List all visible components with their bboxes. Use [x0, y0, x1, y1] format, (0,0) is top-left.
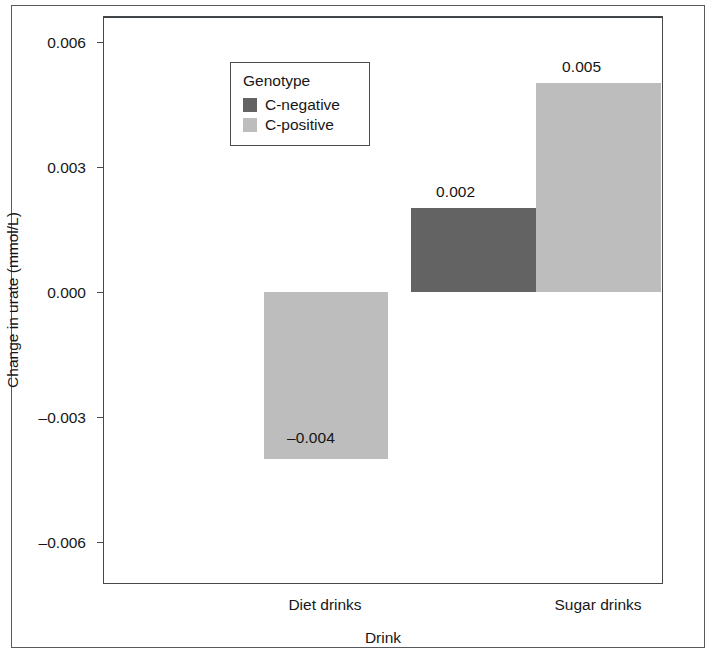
- legend-swatch-icon: [243, 98, 257, 112]
- bar-value-label-sugar-c-negative: 0.002: [436, 183, 475, 201]
- y-tick-label: 0.000: [47, 284, 86, 302]
- bar-sugar-c-negative: [411, 208, 536, 292]
- y-tick-label: 0.006: [47, 34, 86, 52]
- y-tick-mark: 0.003: [97, 167, 104, 168]
- chart-figure: Change in urate (mmol/L) 0.0060.0030.000…: [0, 0, 717, 661]
- y-tick-mark: 0.000: [97, 292, 104, 293]
- x-category-label: Sugar drinks: [554, 596, 641, 614]
- legend-item-label: C-positive: [265, 116, 334, 134]
- y-tick-label: 0.003: [47, 159, 86, 177]
- legend-item: C-positive: [243, 116, 357, 134]
- x-axis-title: Drink: [365, 629, 401, 647]
- x-category-label: Diet drinks: [288, 596, 361, 614]
- y-tick-label: –0.003: [39, 409, 86, 427]
- legend-swatch-icon: [243, 118, 257, 132]
- y-tick-label: –0.006: [39, 534, 86, 552]
- legend-title: Genotype: [243, 72, 357, 90]
- bar-value-label-diet-c-positive: –0.004: [287, 429, 335, 447]
- y-tick-mark: –0.006: [97, 542, 104, 543]
- legend-item-label: C-negative: [265, 96, 340, 114]
- plot-inner-clip: [104, 17, 662, 583]
- y-tick-mark: 0.006: [97, 42, 104, 43]
- legend-item: C-negative: [243, 96, 357, 114]
- plot-area: 0.0060.0030.000–0.003–0.006 –0.0040.0020…: [103, 16, 663, 584]
- legend: Genotype C-negativeC-positive: [230, 62, 370, 146]
- bar-value-label-sugar-c-positive: 0.005: [562, 58, 601, 76]
- y-axis-title: Change in urate (mmol/L): [4, 212, 22, 388]
- y-tick-mark: –0.003: [97, 417, 104, 418]
- bar-sugar-c-positive: [536, 83, 661, 292]
- legend-entries: C-negativeC-positive: [243, 96, 357, 134]
- zero-reference-line: [104, 17, 662, 18]
